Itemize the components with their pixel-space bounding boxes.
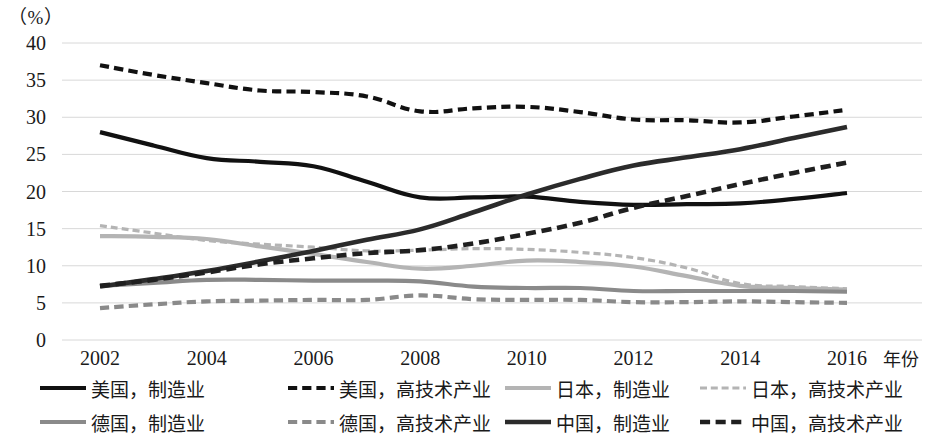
legend-label: 美国，高技术产业 bbox=[339, 375, 491, 402]
legend-label: 中国，高技术产业 bbox=[751, 409, 903, 436]
legend-line-swatch bbox=[700, 415, 746, 429]
chart-container: （%） 4035302520151050 2002200420062008201… bbox=[0, 0, 930, 443]
x-axis-tick-label: 2002 bbox=[80, 348, 120, 368]
x-axis-tick-label: 2014 bbox=[720, 348, 760, 368]
series-line bbox=[100, 295, 847, 308]
series-lines bbox=[100, 65, 847, 308]
legend-label: 中国，制造业 bbox=[556, 409, 670, 436]
x-axis-tick-label: 2008 bbox=[400, 348, 440, 368]
series-line bbox=[100, 127, 847, 287]
legend-label: 日本，高技术产业 bbox=[751, 375, 903, 402]
legend-line-swatch bbox=[505, 381, 551, 395]
legend-item[interactable]: 德国，高技术产业 bbox=[288, 409, 491, 436]
legend-line-swatch bbox=[288, 381, 334, 395]
gridlines bbox=[62, 43, 922, 340]
legend-line-swatch bbox=[40, 415, 86, 429]
legend-label: 德国，高技术产业 bbox=[339, 409, 491, 436]
x-axis-tick-label: 2006 bbox=[293, 348, 333, 368]
chart-legend: 美国，制造业美国，高技术产业日本，制造业日本，高技术产业德国，制造业德国，高技术… bbox=[0, 371, 930, 439]
y-axis-tick-label: 5 bbox=[0, 293, 46, 313]
y-axis-tick-label: 35 bbox=[0, 70, 46, 90]
y-axis-tick-label: 10 bbox=[0, 256, 46, 276]
y-axis-tick-label: 25 bbox=[0, 144, 46, 164]
legend-item[interactable]: 日本，高技术产业 bbox=[700, 375, 903, 402]
legend-line-swatch bbox=[700, 381, 746, 395]
x-axis-tick-label: 2004 bbox=[187, 348, 227, 368]
y-axis-tick-label: 15 bbox=[0, 219, 46, 239]
series-line bbox=[100, 65, 847, 122]
legend-label: 美国，制造业 bbox=[91, 375, 205, 402]
x-axis-tick-label: 2012 bbox=[614, 348, 654, 368]
legend-item[interactable]: 日本，制造业 bbox=[505, 375, 670, 402]
y-axis-tick-label: 20 bbox=[0, 182, 46, 202]
legend-item[interactable]: 中国，制造业 bbox=[505, 409, 670, 436]
legend-item[interactable]: 美国，高技术产业 bbox=[288, 375, 491, 402]
legend-row: 美国，制造业美国，高技术产业日本，制造业日本，高技术产业 bbox=[0, 371, 930, 405]
y-axis-tick-label: 30 bbox=[0, 107, 46, 127]
legend-row: 德国，制造业德国，高技术产业中国，制造业中国，高技术产业 bbox=[0, 405, 930, 439]
legend-line-swatch bbox=[40, 381, 86, 395]
legend-label: 日本，制造业 bbox=[556, 375, 670, 402]
x-axis-tick-label: 2016 bbox=[827, 348, 867, 368]
y-axis-tick-label: 0 bbox=[0, 330, 46, 350]
legend-line-swatch bbox=[288, 415, 334, 429]
legend-item[interactable]: 德国，制造业 bbox=[40, 409, 205, 436]
legend-line-swatch bbox=[505, 415, 551, 429]
legend-item[interactable]: 美国，制造业 bbox=[40, 375, 205, 402]
legend-label: 德国，制造业 bbox=[91, 409, 205, 436]
y-axis-tick-label: 40 bbox=[0, 33, 46, 53]
x-axis-tick-label: 2010 bbox=[507, 348, 547, 368]
legend-item[interactable]: 中国，高技术产业 bbox=[700, 409, 903, 436]
series-line bbox=[100, 132, 847, 205]
x-axis-title: 年份 bbox=[883, 351, 919, 369]
